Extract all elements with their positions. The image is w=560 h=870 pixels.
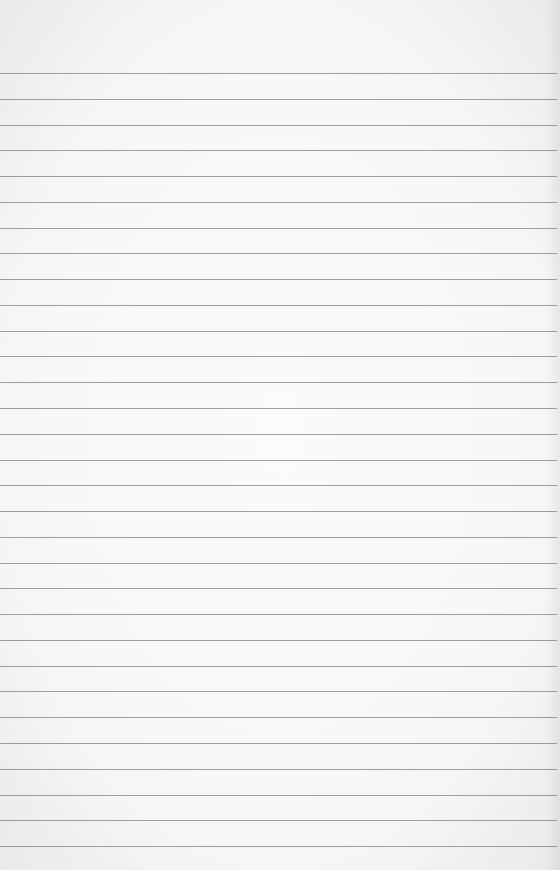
ruled-line xyxy=(0,563,557,564)
ruled-line xyxy=(0,73,557,74)
ruled-line xyxy=(0,795,557,796)
ruled-line xyxy=(0,176,557,177)
ruled-line xyxy=(0,820,557,821)
lined-paper-sheet xyxy=(0,0,560,870)
ruled-line xyxy=(0,125,557,126)
ruled-line xyxy=(0,382,557,383)
ruled-line xyxy=(0,356,557,357)
ruled-line xyxy=(0,434,557,435)
ruled-line xyxy=(0,202,557,203)
ruled-line xyxy=(0,588,557,589)
ruled-line xyxy=(0,537,557,538)
ruled-line xyxy=(0,408,557,409)
ruled-line xyxy=(0,614,557,615)
ruled-line xyxy=(0,666,557,667)
ruled-line xyxy=(0,485,557,486)
ruled-line xyxy=(0,717,557,718)
ruled-line xyxy=(0,511,557,512)
ruled-line xyxy=(0,228,557,229)
ruled-line xyxy=(0,253,557,254)
ruled-line xyxy=(0,279,557,280)
ruled-line xyxy=(0,691,557,692)
ruled-line xyxy=(0,331,557,332)
ruled-line xyxy=(0,99,557,100)
ruled-line xyxy=(0,640,557,641)
ruled-line xyxy=(0,460,557,461)
ruled-line xyxy=(0,769,557,770)
ruled-line xyxy=(0,305,557,306)
ruled-line xyxy=(0,150,557,151)
ruled-line xyxy=(0,743,557,744)
ruled-line xyxy=(0,846,557,847)
